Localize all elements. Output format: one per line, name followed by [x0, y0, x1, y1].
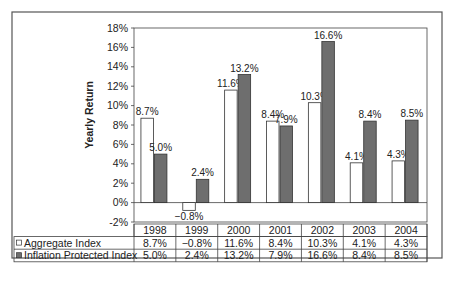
chart-figure: 18%16%14%12%10%8%6%4%2%0%-2%Yearly Retur…: [0, 0, 453, 285]
bar-aggregate-index: [392, 161, 405, 203]
legend-key-inflation-protected-index: [17, 253, 22, 258]
x-category-label: 1999: [185, 224, 209, 236]
bar-inflation-protected-index: [322, 42, 335, 203]
table-cell-value: 4.3%: [394, 237, 418, 249]
table-cell-value: −0.8%: [182, 237, 212, 249]
table-cell-value: 11.6%: [224, 237, 253, 249]
bar-aggregate-index: [183, 203, 196, 211]
bar-inflation-protected-index: [280, 126, 293, 203]
table-cell-value: 8.5%: [394, 249, 418, 261]
data-label: 13.2%: [230, 63, 258, 74]
legend-key-aggregate-index: [17, 240, 22, 245]
data-label: 16.6%: [314, 30, 342, 41]
x-category-label: 2002: [311, 224, 335, 236]
bar-aggregate-index: [308, 103, 321, 203]
data-label: 8.4%: [359, 109, 382, 120]
data-label: 5.0%: [149, 142, 172, 153]
bar-aggregate-index: [225, 90, 238, 203]
data-label: 7.9%: [275, 114, 298, 125]
bar-aggregate-index: [141, 118, 154, 202]
data-label: 8.7%: [136, 106, 159, 117]
y-tick-label: 16%: [107, 41, 128, 53]
y-tick-label: 4%: [113, 157, 128, 169]
table-cell-value: 7.9%: [269, 249, 293, 261]
x-category-label: 1998: [143, 224, 167, 236]
data-label: 8.5%: [400, 108, 423, 119]
y-tick-label: 12%: [107, 80, 128, 92]
y-tick-label: 8%: [113, 119, 128, 131]
bar-aggregate-index: [267, 121, 280, 202]
table-cell-value: 8.4%: [269, 237, 293, 249]
x-category-label: 2004: [394, 224, 418, 236]
bar-inflation-protected-index: [154, 154, 167, 203]
y-tick-label: -2%: [109, 216, 128, 228]
y-tick-label: 6%: [113, 138, 128, 150]
x-category-label: 2000: [227, 224, 251, 236]
data-label: 2.4%: [191, 167, 214, 178]
bar-inflation-protected-index: [238, 75, 251, 203]
table-cell-value: 16.6%: [307, 249, 337, 261]
legend-label: Aggregate Index: [24, 237, 102, 249]
table-cell-value: 8.7%: [143, 237, 167, 249]
y-tick-label: 14%: [107, 60, 128, 72]
bar-inflation-protected-index: [364, 121, 377, 202]
table-cell-value: 2.4%: [185, 249, 209, 261]
y-tick-label: 18%: [107, 22, 128, 34]
legend-label: Inflation Protected Index: [24, 249, 138, 261]
y-tick-label: 0%: [113, 196, 128, 208]
data-label: −0.8%: [175, 211, 204, 222]
x-category-label: 2001: [269, 224, 293, 236]
table-cell-value: 8.4%: [352, 249, 376, 261]
bar-inflation-protected-index: [196, 179, 209, 202]
y-axis-title: Yearly Return: [83, 81, 95, 149]
bar-chart: 18%16%14%12%10%8%6%4%2%0%-2%Yearly Retur…: [0, 0, 453, 285]
bar-inflation-protected-index: [406, 120, 419, 202]
table-cell-value: 10.3%: [307, 237, 337, 249]
table-cell-value: 13.2%: [224, 249, 254, 261]
table-cell-value: 5.0%: [143, 249, 167, 261]
bar-aggregate-index: [350, 163, 363, 203]
table-cell-value: 4.1%: [352, 237, 376, 249]
x-category-label: 2003: [353, 224, 377, 236]
y-tick-label: 10%: [107, 99, 128, 111]
y-tick-label: 2%: [113, 177, 128, 189]
